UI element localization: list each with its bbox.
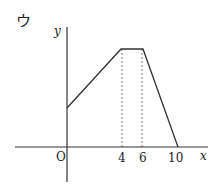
y-axis-label: y	[53, 24, 61, 38]
graph-figure: ウ y x O 4 6 10	[0, 0, 221, 190]
x-axis-label: x	[200, 149, 207, 163]
tick-4: 4	[118, 151, 126, 165]
tick-10: 10	[168, 151, 183, 165]
origin-label: O	[56, 150, 66, 164]
tick-6: 6	[139, 151, 147, 165]
figure-label: ウ	[16, 12, 31, 30]
graph-line	[67, 49, 178, 147]
